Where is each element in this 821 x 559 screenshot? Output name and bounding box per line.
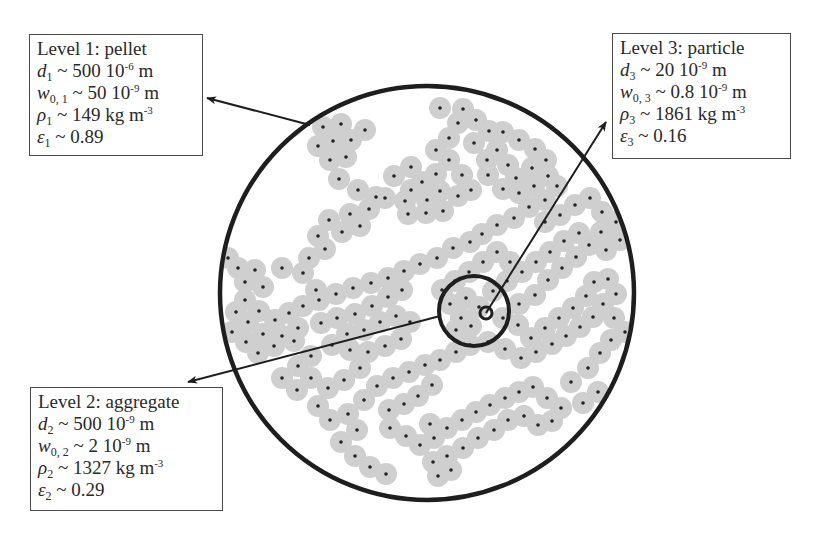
particle-core [431, 460, 435, 464]
particle-core [272, 344, 276, 348]
particle-core [378, 320, 382, 324]
property-value: ~ 20 10 [636, 59, 699, 80]
particle-core [348, 348, 352, 352]
property-unit: m [707, 59, 727, 80]
particle-core [503, 396, 507, 400]
level-1-heading: Level 1: pellet [37, 38, 196, 60]
particle-core [351, 286, 355, 290]
particle-core [481, 260, 485, 264]
particle-core [309, 354, 313, 358]
particle-core [434, 148, 438, 152]
particle-core [319, 321, 323, 325]
particle-core [612, 316, 616, 320]
particle-core [606, 277, 610, 281]
particle-core [409, 165, 413, 169]
particle-core [451, 246, 455, 250]
particle-core [339, 440, 343, 444]
property-exponent: -9 [130, 82, 139, 94]
particle-core [519, 356, 523, 360]
property-symbol: w [38, 435, 51, 456]
particle-core [456, 121, 460, 125]
particle-core [516, 323, 520, 327]
particle-core [424, 211, 428, 215]
property-exponent: -3 [144, 104, 153, 116]
particle-core [416, 394, 420, 398]
particle-core [391, 376, 395, 380]
particle-core [550, 342, 554, 346]
particle-core [409, 188, 413, 192]
particle-core [404, 434, 408, 438]
particle-core [476, 436, 480, 440]
particle-core [514, 176, 518, 180]
particle-core [488, 403, 492, 407]
particle-core [327, 218, 331, 222]
particle-core [448, 302, 452, 306]
particle-core [345, 332, 349, 336]
particle-core [560, 266, 564, 270]
particle-core [392, 174, 396, 178]
particle-core [534, 350, 538, 354]
particle-core [290, 124, 294, 128]
particle-core [517, 302, 521, 306]
particle-core [501, 187, 505, 191]
particle-core [517, 138, 521, 142]
particle-core [420, 180, 424, 184]
particle-core [296, 364, 300, 368]
particle-core [529, 336, 533, 340]
particle-core [456, 194, 460, 198]
particle-core [464, 296, 468, 300]
particle-core [592, 280, 596, 284]
particle-core [418, 262, 422, 266]
particle-core [355, 428, 359, 432]
particle-core [314, 288, 318, 292]
particle-core [474, 410, 478, 414]
particle-core [472, 141, 476, 145]
particle-core [501, 130, 505, 134]
property-row: d2 ~ 500 10-9 m [38, 413, 216, 435]
particle-core [469, 324, 473, 328]
particle-core [246, 320, 250, 324]
particle-core [383, 196, 387, 200]
level-1-pellet-box: Level 1: pellet d1 ~ 500 10-6 mw0, 1 ~ 5… [29, 34, 203, 156]
particle-core [339, 122, 343, 126]
particle-core [342, 378, 346, 382]
particle-core [571, 306, 575, 310]
particle-core [388, 426, 392, 430]
particle-core [331, 139, 335, 143]
particle-core [230, 330, 234, 334]
property-value: ~ 0.29 [52, 479, 105, 500]
particle-core [543, 198, 547, 202]
particle-core [316, 234, 320, 238]
particle-core [244, 340, 248, 344]
particle-core [533, 293, 537, 297]
particle-core [432, 436, 436, 440]
property-row: w0, 1 ~ 50 10-9 m [37, 82, 196, 104]
particle-core [445, 454, 449, 458]
particle-core [243, 298, 247, 302]
property-exponent: -9 [698, 59, 707, 71]
particle-core [280, 266, 284, 270]
particle-core [406, 212, 410, 216]
particle-core [316, 144, 320, 148]
particle-core [581, 401, 585, 405]
particle-core [234, 310, 238, 314]
property-value: ~ 500 10 [53, 60, 125, 81]
property-value: ~ 50 10 [68, 82, 131, 103]
level-1-properties: d1 ~ 500 10-6 mw0, 1 ~ 50 10-9 mρ1 ~ 149… [37, 60, 196, 148]
particle-core [469, 188, 473, 192]
particle-core [543, 326, 547, 330]
particle-core [596, 390, 600, 394]
particle-core [461, 107, 465, 111]
particle-core [508, 260, 512, 264]
particle-core [384, 472, 388, 476]
particle-core [548, 250, 552, 254]
particle-core [491, 289, 495, 293]
particle-core [326, 386, 330, 390]
particle-core [587, 243, 591, 247]
particle-core [407, 370, 411, 374]
particle-core [368, 465, 372, 469]
particle-core [253, 268, 257, 272]
particle-core [562, 239, 566, 243]
particle-core [555, 184, 559, 188]
property-unit: m [727, 81, 747, 102]
